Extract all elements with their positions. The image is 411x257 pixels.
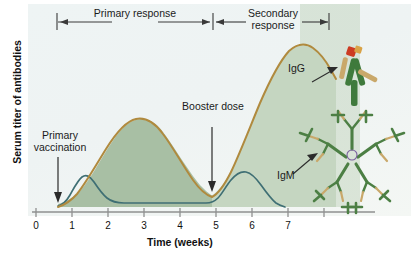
primary-vaccination-arrow: [54, 157, 62, 203]
booster-dose-label: Booster dose: [178, 101, 248, 113]
igm-label: IgM: [277, 169, 295, 181]
x-tick-label-1: 1: [62, 220, 82, 231]
primary-vaccination-label: Primary vaccination: [18, 130, 102, 153]
x-tick-label-7: 7: [278, 220, 298, 231]
x-tick-label-2: 2: [98, 220, 118, 231]
x-tick-label-3: 3: [134, 220, 154, 231]
secondary-response-label: Secondary response: [228, 8, 318, 31]
x-tick-label-4: 4: [170, 220, 190, 231]
x-tick-label-5: 5: [206, 220, 226, 231]
y-axis-label: Serum titer of antibodies: [11, 27, 23, 177]
x-axis-label: Time (weeks): [0, 236, 360, 248]
booster-dose-arrow: [208, 127, 216, 192]
primary-response-label: Primary response: [90, 8, 180, 20]
x-tick-label-0: 0: [26, 220, 46, 231]
antibody-response-figure: Serum titer of antibodies Time (weeks) 0…: [0, 0, 411, 257]
igg-label: IgG: [288, 62, 305, 74]
x-tick-label-6: 6: [242, 220, 262, 231]
